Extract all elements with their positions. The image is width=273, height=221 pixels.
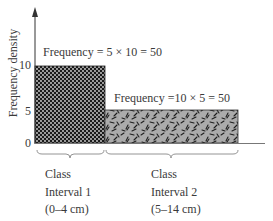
y-tick-5: 5 [17,104,31,119]
y-tick-0: 0 [17,136,31,151]
y-axis-arrow-icon [32,7,38,17]
histogram-plot [0,0,273,221]
annotation-bar-1: Frequency = 5 × 10 = 50 [43,45,162,60]
annotation-bar-2: Frequency =10 × 5 = 50 [114,91,230,106]
bar-class-interval-1 [35,66,105,143]
y-tick-10: 10 [17,58,31,73]
class-label-2: Class Interval 2 (5–14 cm) [151,166,201,219]
brace-class-interval-1 [37,150,104,158]
bar-class-interval-2 [105,110,238,143]
class-label-1: Class Interval 1 (0–4 cm) [45,166,91,219]
brace-class-interval-2 [106,150,238,158]
